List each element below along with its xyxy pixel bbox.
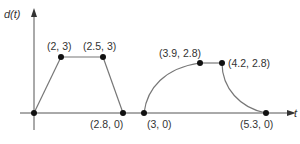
point-origin (31, 110, 37, 116)
label-2.8-0: (2.8, 0) (90, 118, 123, 130)
label-3-0: (3, 0) (147, 118, 172, 130)
curve-4.2-to-5.3 (222, 63, 266, 113)
point-3-0 (141, 110, 147, 116)
y-axis-arrow-icon (31, 8, 37, 17)
point-2.5-3 (100, 54, 106, 60)
point-4.2-2.8 (219, 60, 225, 66)
point-2.8-0 (120, 110, 126, 116)
label-2-3: (2, 3) (47, 40, 72, 52)
point-5.3-0 (263, 110, 269, 116)
curve-3-to-3.9 (144, 63, 200, 113)
label-2.5-3: (2.5, 3) (83, 40, 116, 52)
segment-0-to-2 (34, 57, 61, 113)
distance-time-graph: d(t) t (2, 3) (2.5, 3) (2.8, 0) (3, 0) (… (0, 0, 300, 144)
label-4.2-2.8: (4.2, 2.8) (228, 57, 270, 69)
label-5.3-0: (5.3, 0) (240, 118, 273, 130)
segment-2.5-to-2.8 (103, 57, 123, 113)
y-axis-label: d(t) (4, 8, 21, 20)
point-3.9-2.8 (197, 60, 203, 66)
point-2-3 (58, 54, 64, 60)
label-3.9-2.8: (3.9, 2.8) (159, 47, 201, 59)
x-axis-label: t (294, 107, 298, 119)
axes (20, 8, 296, 130)
